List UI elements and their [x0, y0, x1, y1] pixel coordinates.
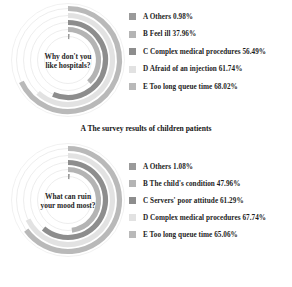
legend-item[interactable]: B The child's condition 47.96% — [129, 175, 291, 192]
legend-item-label: A Others 0.98% — [143, 13, 193, 21]
radial-bars-bottom — [26, 149, 119, 252]
legend-item-label: D Complex medical procedures 67.74% — [143, 214, 266, 222]
figure-caption-top: A The survey results of children patient… — [0, 124, 292, 133]
legend-top: A Others 0.98% B Feel ill 37.96% C Compl… — [129, 8, 291, 96]
legend-item[interactable]: A Others 0.98% — [129, 8, 291, 26]
legend-item[interactable]: D Complex medical procedures 67.74% — [129, 209, 291, 226]
radial-bar-segment — [68, 30, 98, 83]
radial-chart-panel-top: Why don't you like hospitals? A Others 0… — [0, 0, 292, 118]
legend-swatch-icon — [129, 163, 136, 170]
legend-swatch-icon — [129, 13, 136, 20]
legend-item[interactable]: A Others 1.08% — [129, 158, 291, 175]
legend-swatch-icon — [129, 48, 136, 55]
legend-swatch-icon — [129, 83, 136, 90]
legend-swatch-icon — [129, 66, 136, 73]
radial-bar-chart-bottom: What can ruin your mood most? — [8, 142, 128, 260]
legend-swatch-icon — [129, 31, 136, 38]
radial-chart-panel-bottom: What can ruin your mood most? A Others 1… — [0, 140, 292, 258]
legend-item-label: E Too long queue time 68.02% — [143, 83, 238, 91]
legend-item[interactable]: D Afraid of an injection 61.74% — [129, 61, 291, 79]
legend-item-label: D Afraid of an injection 61.74% — [143, 65, 242, 73]
legend-item[interactable]: B Feel ill 37.96% — [129, 26, 291, 44]
legend-item-label: B The child's condition 47.96% — [143, 180, 240, 188]
radial-chart-svg-top — [8, 2, 128, 120]
legend-swatch-icon — [129, 231, 136, 238]
legend-swatch-icon — [129, 214, 136, 221]
legend-swatch-icon — [129, 180, 136, 187]
radial-chart-svg-bottom — [8, 142, 128, 260]
radial-bar-segment — [68, 170, 98, 231]
legend-swatch-icon — [129, 197, 136, 204]
legend-item[interactable]: C Servers' poor attitude 61.29% — [129, 192, 291, 209]
legend-item-label: A Others 1.08% — [143, 163, 193, 171]
legend-item[interactable]: C Complex medical procedures 56.49% — [129, 43, 291, 61]
figure-mood-survey: What can ruin your mood most? A Others 1… — [0, 140, 292, 287]
radial-bar-chart-top: Why don't you like hospitals? — [8, 2, 128, 120]
radial-bars-top — [21, 9, 119, 112]
legend-item-label: B Feel ill 37.96% — [143, 30, 196, 38]
legend-item-label: C Complex medical procedures 56.49% — [143, 48, 266, 56]
legend-item-label: C Servers' poor attitude 61.29% — [143, 197, 244, 205]
figure-children-patients: Why don't you like hospitals? A Others 0… — [0, 0, 292, 140]
legend-item[interactable]: E Too long queue time 65.06% — [129, 226, 291, 243]
legend-item[interactable]: E Too long queue time 68.02% — [129, 78, 291, 96]
legend-bottom: A Others 1.08% B The child's condition 4… — [129, 158, 291, 243]
legend-item-label: E Too long queue time 65.06% — [143, 231, 238, 239]
